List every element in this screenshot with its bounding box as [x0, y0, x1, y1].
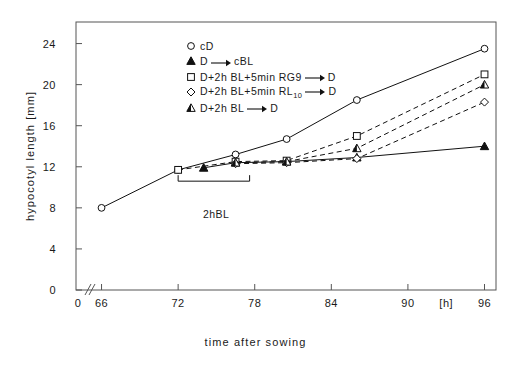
legend: cDDcBLD+2h BL+5min RG9DD+2h BL+5min RL10…: [186, 38, 336, 116]
legend-item-label: DcBL: [200, 55, 254, 67]
open-diamond-icon: [186, 86, 200, 98]
series-2: [199, 142, 488, 171]
filled-triangle-icon: [186, 55, 200, 67]
open-circle-icon: [186, 40, 200, 52]
legend-item-1: cD: [186, 38, 336, 54]
open-square-icon: [186, 71, 200, 83]
legend-item-5: D+2h BLD: [186, 100, 336, 116]
legend-item-label: D+2h BL+5min RG9D: [200, 71, 336, 83]
legend-item-2: DcBL: [186, 54, 336, 70]
annotation-2hbl: 2hBL: [203, 208, 229, 220]
legend-item-label: cD: [200, 40, 214, 52]
legend-item-3: D+2h BL+5min RG9D: [186, 69, 336, 85]
half-triangle-icon: [186, 102, 200, 114]
legend-item-label: D+2h BL+5min RL10D: [200, 85, 336, 100]
legend-item-4: D+2h BL+5min RL10D: [186, 85, 336, 101]
chart-figure: hypocotyl length [mm] time after sowing …: [0, 0, 511, 368]
annotation-bracket: [178, 175, 249, 181]
legend-item-label: D+2h BLD: [200, 102, 278, 114]
